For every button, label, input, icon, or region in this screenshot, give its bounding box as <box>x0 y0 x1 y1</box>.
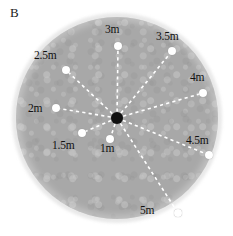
distance-label: 1.5m <box>52 140 75 152</box>
radial-distance-figure: 1m1.5m2m2.5m3m3.5m4m4.5m5m B <box>0 0 233 236</box>
distance-node <box>168 47 176 55</box>
distance-node <box>62 66 70 74</box>
distance-node <box>205 151 213 159</box>
distance-label: 2m <box>28 103 42 115</box>
distance-label: 4.5m <box>186 135 209 147</box>
ray-line <box>56 108 117 118</box>
distance-node <box>78 129 86 137</box>
distance-label: 3m <box>105 24 119 36</box>
panel-letter: B <box>10 6 19 19</box>
distance-label: 1m <box>100 143 114 155</box>
distance-node <box>52 104 60 112</box>
distance-node <box>174 209 182 217</box>
distance-node <box>199 89 207 97</box>
distance-label: 4m <box>190 72 204 84</box>
ray-line <box>66 70 117 118</box>
distance-label: 2.5m <box>34 50 57 62</box>
ray-line <box>117 118 178 213</box>
distance-label: 3.5m <box>156 31 179 43</box>
distance-node <box>114 42 122 50</box>
ray-line <box>117 51 172 118</box>
ray-line <box>117 46 118 118</box>
center-node <box>111 112 123 124</box>
ray-line <box>117 93 203 118</box>
distance-label: 5m <box>140 205 154 217</box>
